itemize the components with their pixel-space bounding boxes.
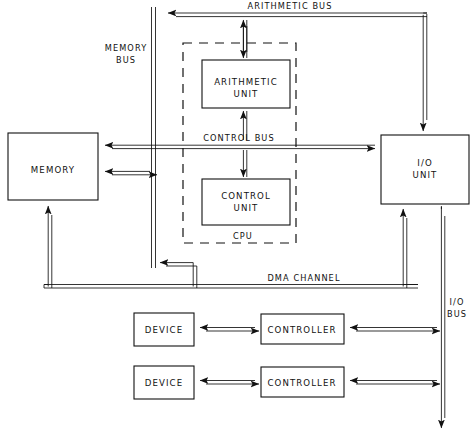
control-bus-path (105, 145, 375, 148)
controller1-iobus-connector (350, 328, 440, 332)
control-unit-box (202, 179, 290, 225)
device1-controller1-connector (200, 328, 259, 332)
memory-bus-connector (105, 171, 157, 174)
controlbus-to-controlunit-connector (243, 150, 246, 177)
io-bus-line (441, 206, 444, 428)
io-bus-label-line2: BUS (447, 309, 467, 319)
arithmetic-unit-label-line2: UNIT (234, 89, 259, 99)
device-label-2: DEVICE (145, 378, 184, 388)
dma-channel-label: DMA CHANNEL (267, 273, 340, 283)
diagram-canvas: ARITHMETIC BUS MEMORY BUS ARITHMETIC UNI… (0, 0, 474, 438)
arithmetic-unit-connector (243, 20, 246, 58)
device-label-1: DEVICE (145, 325, 184, 335)
io-bus-label-line1: I/O (450, 297, 465, 307)
arithmetic-bus-label: ARITHMETIC BUS (247, 1, 332, 11)
memory-bus-label-line1: MEMORY (105, 43, 148, 53)
architecture-diagram: ARITHMETIC BUS MEMORY BUS ARITHMETIC UNI… (0, 0, 474, 438)
memory-label: MEMORY (31, 165, 75, 175)
io-unit-label-line2: UNIT (413, 170, 438, 180)
memory-bus-label-line2: BUS (116, 55, 136, 65)
control-unit-label-line2: UNIT (234, 203, 259, 213)
controller-label-2: CONTROLLER (267, 378, 336, 388)
io-unit-label-line1: I/O (417, 158, 433, 168)
memory-bus-line (152, 7, 156, 268)
controller2-iobus-connector (350, 381, 440, 385)
cpu-label: CPU (233, 231, 253, 241)
controller-label-1: CONTROLLER (267, 325, 336, 335)
device2-controller2-connector (200, 381, 259, 385)
control-bus-label: CONTROL BUS (203, 133, 275, 143)
arithmetic-unit-label-line1: ARITHMETIC (214, 77, 278, 87)
control-unit-label-line1: CONTROL (221, 191, 271, 201)
